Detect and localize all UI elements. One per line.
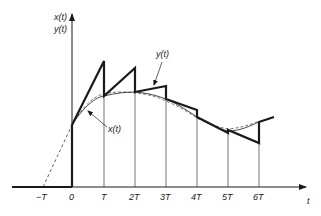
- tick-label-3T: 3T: [160, 192, 172, 202]
- signal-reconstruction-diagram: x(t) y(t) t −T 0 T 2T 3T 4T 5T 6T y(t) x…: [0, 0, 321, 216]
- tick-label-5T: 5T: [222, 192, 234, 202]
- x-curve-annotation: x(t): [107, 124, 121, 134]
- tick-labels: −T 0 T 2T 3T 4T 5T 6T: [36, 192, 265, 202]
- tick-label-4T: 4T: [191, 192, 203, 202]
- tick-label-minus-T: −T: [36, 192, 48, 202]
- y-curve-pointer: [154, 62, 162, 85]
- tick-label-2T: 2T: [128, 192, 141, 202]
- y-axis-label-x: x(t): [53, 12, 67, 22]
- tick-label-T: T: [101, 192, 108, 202]
- y-curve-annotation: y(t): [155, 49, 169, 59]
- y-curve: [72, 61, 274, 143]
- tick-label-0: 0: [69, 192, 74, 202]
- extrapolation-dashed-line: [43, 125, 72, 187]
- sample-gridlines: [104, 92, 259, 187]
- tick-label-6T: 6T: [253, 192, 265, 202]
- t-axis-label: t: [307, 196, 310, 206]
- y-axis-label-y: y(t): [53, 24, 67, 34]
